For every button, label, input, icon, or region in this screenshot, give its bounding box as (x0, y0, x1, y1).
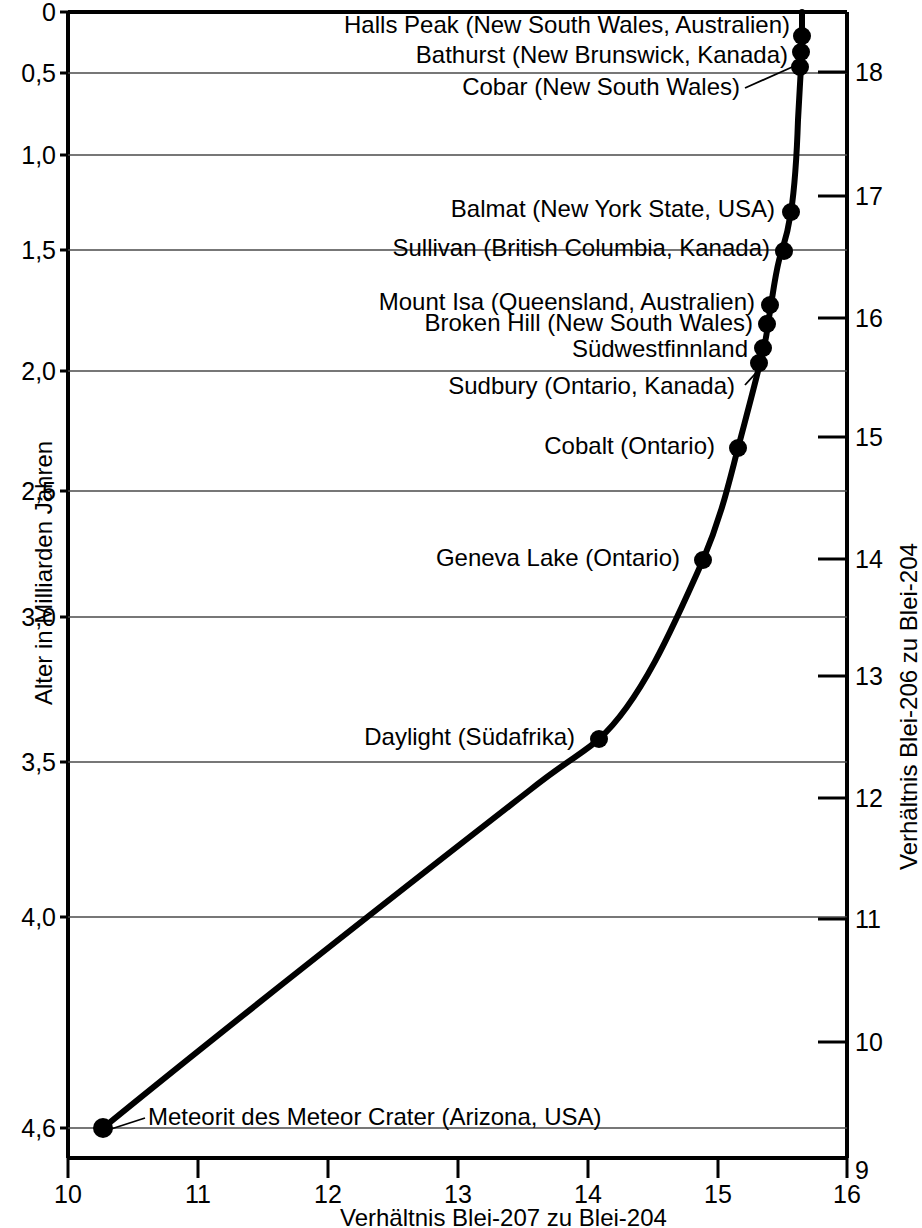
marker-cobalt (729, 439, 747, 457)
y-tick-label-0: 0 (0, 0, 56, 25)
point-label-sudbury: Sudbury (Ontario, Kanada) (230, 373, 735, 399)
gridlines-horizontal (68, 73, 847, 1128)
x-axis-title: Verhältnis Blei-207 zu Blei-204 (340, 1204, 667, 1228)
point-label-geneva-lake: Geneva Lake (Ontario) (200, 545, 680, 571)
marker-sudbury (750, 354, 768, 372)
x-tick-label-5: 15 (688, 1182, 748, 1207)
point-label-balmat: Balmat (New York State, USA) (230, 196, 775, 222)
data-point-markers (93, 27, 811, 1138)
y2-tick-label-0: 18 (855, 60, 883, 85)
point-label-halls-peak: Halls Peak (New South Wales, Australien) (240, 12, 790, 38)
y-tick-label-1: 0,5 (0, 61, 56, 86)
point-label-cobar: Cobar (New South Wales) (240, 74, 740, 100)
y-tick-label-8: 4,0 (0, 905, 56, 930)
y2-tick-label-7: 11 (855, 907, 881, 932)
marker-broken-hill (758, 315, 776, 333)
y2-tick-label-6: 12 (855, 786, 883, 811)
y2-tick-label-4: 14 (855, 547, 883, 572)
y2-tick-label-3: 15 (855, 425, 883, 450)
y2-tick-label-1: 17 (855, 184, 883, 209)
marker-sullivan (775, 242, 793, 260)
marker-mount-isa (761, 296, 779, 314)
x-tick-label-6: 16 (817, 1182, 877, 1207)
plot-frame (68, 12, 847, 1158)
point-label-sullivan: Sullivan (British Columbia, Kanada) (230, 235, 770, 261)
point-label-meteor-crater: Meteorit des Meteor Crater (Arizona, USA… (148, 1104, 708, 1130)
y-tick-label-2: 1,0 (0, 143, 56, 168)
growth-curve (103, 603, 599, 1128)
x-tick-label-0: 10 (38, 1182, 98, 1207)
y2-tick-label-2: 16 (855, 306, 883, 331)
marker-daylight (590, 730, 608, 748)
point-label-cobalt: Cobalt (Ontario) (230, 433, 715, 459)
x-tick-label-1: 11 (168, 1182, 228, 1207)
marker-balmat (782, 203, 800, 221)
point-label-suedwestfinnland: Südwestfinnland (230, 336, 748, 362)
marker-meteor-crater (93, 1118, 113, 1138)
bottom-axis-ticks (68, 1158, 847, 1178)
marker-cobar (791, 58, 809, 76)
point-label-daylight: Daylight (Südafrika) (180, 724, 575, 750)
y2-tick-label-8: 10 (855, 1030, 883, 1055)
y-tick-label-7: 3,5 (0, 750, 56, 775)
point-label-broken-hill: Broken Hill (New South Wales) (230, 310, 753, 336)
marker-geneva-lake (694, 551, 712, 569)
y2-tick-label-5: 13 (855, 664, 883, 689)
right-axis-ticks (818, 72, 847, 1042)
point-label-bathurst: Bathurst (New Brunswick, Kanada) (240, 42, 788, 68)
y2-axis-title: Verhältnis Blei-206 zu Blei-204 (895, 543, 922, 870)
leader-lines (108, 64, 799, 1130)
y-axis-title: Alter in Milliarden Jahren (30, 441, 58, 705)
y-tick-label-9: 4,6 (0, 1116, 56, 1141)
y-tick-label-4: 2,0 (0, 359, 56, 384)
marker-halls-peak (793, 27, 811, 45)
y-tick-label-3: 1,5 (0, 238, 56, 263)
